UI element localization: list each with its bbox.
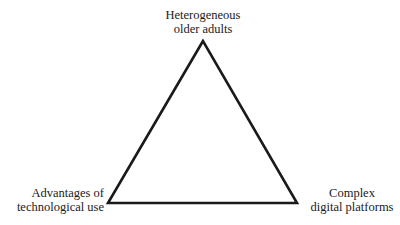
label-right-line1: Complex (298, 186, 400, 200)
triangle-diagram: Heterogeneous older adults Advantages of… (0, 0, 400, 225)
label-advantages-of-technological-use: Advantages of technological use (2, 186, 104, 214)
label-right-line2: digital platforms (298, 200, 400, 214)
label-heterogeneous-older-adults: Heterogeneous older adults (150, 8, 256, 36)
label-left-line1: Advantages of (2, 186, 104, 200)
label-top-line2: older adults (150, 22, 256, 36)
label-top-line1: Heterogeneous (150, 8, 256, 22)
label-left-line2: technological use (2, 200, 104, 214)
label-complex-digital-platforms: Complex digital platforms (298, 186, 400, 214)
